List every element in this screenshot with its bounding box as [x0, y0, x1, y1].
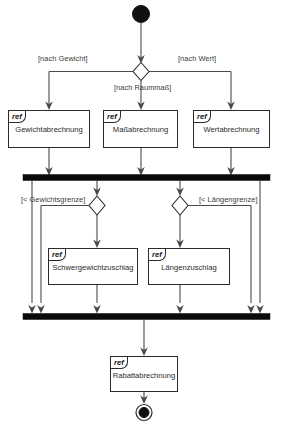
ref-title-rabattabrechnung: Rabattabrechnung	[111, 370, 177, 381]
final-node-core	[139, 408, 149, 418]
join-bar	[23, 314, 270, 320]
decision-abrechnungsart	[133, 63, 149, 81]
ref-tag-label: ref	[9, 111, 26, 123]
activity-diagram-canvas: [nach Gewicht] [nach Raummaß] [nach Wert…	[0, 0, 284, 437]
ref-title-laengenzuschlag: Längenzuschlag	[149, 262, 229, 273]
guard-label-nach-raummass: [nach Raummaß]	[114, 83, 171, 93]
ref-tag-label: ref	[194, 111, 211, 123]
ref-title-massabrechnung: Maßabrechnung	[104, 124, 177, 135]
decision-laengengrenze	[172, 196, 188, 215]
ref-node-laengenzuschlag[interactable]: ref Längenzuschlag	[148, 248, 230, 285]
arrowhead-left-bypass-to-join	[28, 305, 36, 314]
ref-node-schwergewichtzuschlag[interactable]: ref Schwergewichtzuschlag	[48, 248, 138, 285]
guard-label-nach-gewicht: [nach Gewicht]	[38, 54, 88, 64]
decision-gewichtsgrenze	[89, 196, 105, 215]
arrowhead-gewichtsgrenze-else-to-join	[37, 305, 45, 314]
ref-node-rabattabrechnung[interactable]: ref Rabattabrechnung	[110, 356, 178, 392]
ref-tag-label: ref	[104, 111, 121, 123]
guard-label-gewichtsgrenze: [< Gewichtsgrenze]	[21, 195, 85, 205]
fork-bar	[23, 175, 270, 181]
arrowhead-right-bypass-to-join	[256, 305, 264, 314]
ref-title-schwergewichtzuschlag: Schwergewichtzuschlag	[49, 262, 137, 273]
ref-tag-label: ref	[111, 357, 128, 369]
guard-label-laengengrenze: [< Längengrenze]	[199, 195, 258, 205]
arrowhead-schwergewichtzuschlag-to-join	[93, 305, 101, 314]
ref-node-wertabrechnung[interactable]: ref Wertabrechnung	[193, 110, 270, 148]
ref-tag-label: ref	[149, 249, 166, 261]
arrowhead-laengenzuschlag-to-join	[176, 305, 184, 314]
ref-node-massabrechnung[interactable]: ref Maßabrechnung	[103, 110, 178, 148]
guard-label-nach-wert: [nach Wert]	[178, 54, 216, 64]
ref-tag-label: ref	[49, 249, 66, 261]
ref-node-gewichtabrechnung[interactable]: ref Gewichtabrechnung	[8, 110, 90, 148]
ref-title-wertabrechnung: Wertabrechnung	[194, 124, 269, 135]
arrowhead-laengengrenze-else-to-join	[247, 305, 255, 314]
initial-node	[133, 6, 150, 23]
ref-title-gewichtabrechnung: Gewichtabrechnung	[9, 124, 89, 135]
